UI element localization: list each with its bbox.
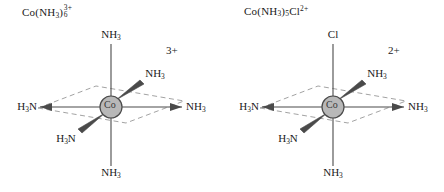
arrowhead-left-left [40, 103, 52, 111]
ligand-label-lower-left-right: H3N [278, 133, 298, 145]
ligand-label-right-left: NH3 [186, 101, 206, 113]
ligand-label-upper-right-right: NH3 [367, 68, 387, 80]
ligand-label-upper-right-left: NH3 [145, 68, 165, 80]
bond-wedge-lower-left-right [300, 113, 327, 133]
ligand-label-bottom-right: NH3 [323, 167, 343, 179]
ligand-label-right-right: NH3 [408, 101, 428, 113]
ligand-label-top-right: Cl [328, 29, 338, 41]
ligand-label-left-left: H3N [17, 101, 37, 113]
arrowhead-right-right [392, 103, 404, 111]
metal-label-left: Co [104, 100, 116, 110]
complex-hexaamminecobalt: Co(NH3)3+6 3+ NH3 [0, 0, 222, 192]
complex-chloropentaamminecobalt: Co(NH3)5Cl2+ 2+ Cl NH3 H3N NH3 [222, 0, 444, 192]
arrowhead-right-left [170, 103, 182, 111]
ligand-label-bottom-left: NH3 [101, 167, 121, 179]
diagram-canvas: Co(NH3)3+6 3+ NH3 [0, 0, 444, 192]
ligand-label-top-left: NH3 [101, 29, 121, 41]
ligand-label-left-right: H3N [239, 101, 259, 113]
ligand-label-lower-left-left: H3N [56, 133, 76, 145]
bond-wedge-lower-left-left [78, 113, 105, 133]
metal-label-right: Co [326, 100, 338, 110]
arrowhead-left-right [262, 103, 274, 111]
